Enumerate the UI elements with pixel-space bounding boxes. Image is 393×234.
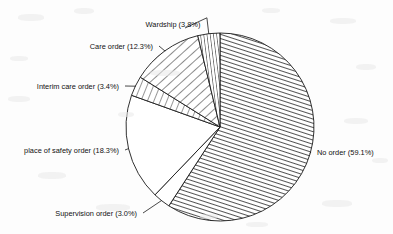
slice-label-no-order: No order (59.1%) (317, 148, 374, 157)
pie-chart-figure: No order (59.1%) Supervision order (3.0%… (0, 0, 393, 234)
slice-label-care-order: Care order (12.3%) (90, 42, 153, 51)
pie-slices-group (126, 33, 314, 221)
slice-label-interim-care-order: Interim care order (3.4%) (37, 82, 119, 91)
slice-label-wardship: Wardship (3.8%) (146, 20, 201, 29)
leader-line-supervision-order (143, 200, 162, 213)
slice-label-place-of-safety-order: place of safety order (18.3%) (24, 146, 119, 155)
slice-label-supervision-order: Supervision order (3.0%) (55, 209, 137, 218)
leader-line-care-order (159, 46, 165, 51)
pie-chart-canvas: No order (59.1%) Supervision order (3.0%… (0, 0, 393, 234)
